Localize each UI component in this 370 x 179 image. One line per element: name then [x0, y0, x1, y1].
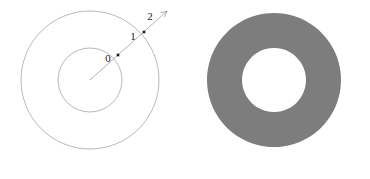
- left-panel-concentric-circles: 0 1 2: [21, 10, 167, 149]
- radial-ray: [90, 11, 167, 80]
- marker-point-1: [143, 31, 146, 34]
- figure-canvas: 0 1 2: [0, 0, 370, 179]
- figure-root: 0 1 2: [0, 0, 370, 179]
- right-panel-shaded-annulus: [207, 13, 341, 147]
- marker-label-2: 2: [147, 10, 153, 22]
- marker-point-0: [117, 54, 120, 57]
- marker-label-1: 1: [130, 30, 136, 42]
- annulus-shape: [207, 13, 341, 147]
- marker-label-0: 0: [105, 52, 111, 64]
